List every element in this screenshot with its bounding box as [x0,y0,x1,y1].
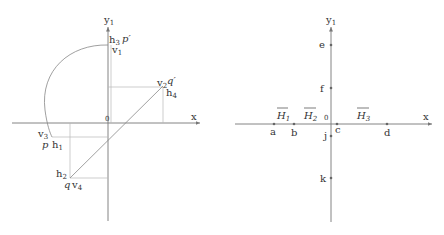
point-a [273,123,276,126]
svg-text:H3: H3 [356,110,371,123]
label-p-prime: p′ [122,33,131,44]
point-j [330,135,333,138]
diagram-canvas: x y1 0 h3 p′ v1 v2 q′ h4 v3 p h1 h2 q v4… [0,0,444,235]
interval-H3: H3 [356,108,371,123]
label-h1: h1 [52,139,63,152]
left-origin-label: 0 [105,115,109,123]
label-p: p [42,139,49,150]
right-diagram: x y1 0 a b c d e f j k H1 H2 H3 [235,14,432,222]
label-v1: v1 [111,44,122,57]
point-d [386,123,389,126]
interval-H2: H2 [303,108,318,123]
right-y-label: y1 [325,14,336,27]
point-e [330,44,333,47]
label-c: c [335,124,341,135]
label-d: d [384,127,391,138]
label-q: q [64,179,70,190]
point-f [330,87,333,90]
label-h4: h4 [166,87,177,100]
left-y-label: y1 [103,14,114,27]
label-f: f [320,83,325,94]
label-b: b [291,127,297,138]
label-j: j [323,130,327,141]
label-a: a [270,126,276,137]
right-origin-label: 0 [324,114,328,122]
svg-text:H1: H1 [276,110,290,123]
interval-H1: H1 [276,108,290,123]
label-q-prime: q′ [167,75,176,86]
point-k [330,177,333,180]
left-x-label: x [191,111,197,122]
label-v4: v4 [71,179,83,192]
svg-text:H2: H2 [303,110,318,123]
right-x-label: x [423,111,429,122]
segment-q-to-q-prime [70,86,163,178]
label-k: k [320,173,327,184]
left-diagram: x y1 0 h3 p′ v1 v2 q′ h4 v3 p h1 h2 q v4 [12,14,200,221]
label-e: e [319,39,325,50]
point-b [293,123,296,126]
